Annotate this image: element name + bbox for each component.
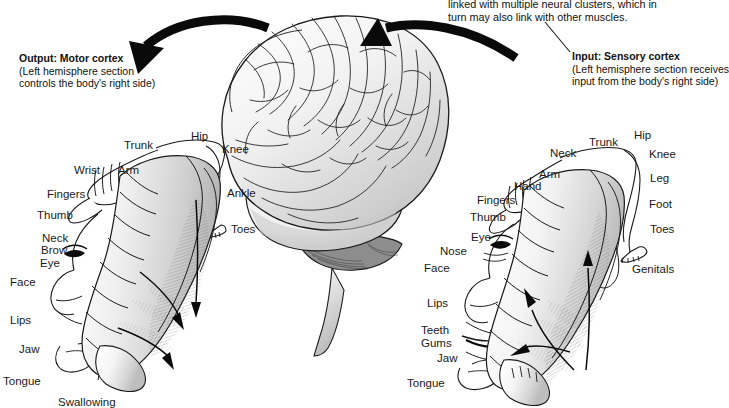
sensory-label-face: Face — [424, 262, 450, 274]
motor-label-fingers: Fingers — [47, 188, 85, 200]
input-caption: Input: Sensory cortex (Left hemisphere s… — [572, 50, 729, 88]
output-caption: Output: Motor cortex (Left hemisphere se… — [19, 52, 155, 90]
motor-homunculus-illustration — [51, 140, 226, 391]
sensory-homunculus-illustration — [458, 147, 647, 405]
sensory-label-fingers: Fingers — [477, 194, 515, 206]
sensory-label-jaw: Jaw — [437, 352, 457, 364]
motor-label-ankle: Ankle — [227, 187, 256, 199]
motor-label-hip: Hip — [191, 130, 208, 142]
sensory-label-tongue: Tongue — [407, 377, 445, 389]
sensory-label-hip: Hip — [634, 129, 651, 141]
motor-label-face: Face — [10, 276, 36, 288]
sensory-label-foot: Foot — [649, 198, 672, 210]
input-leader-line — [545, 22, 570, 52]
output-caption-line-2: controls the body's right side) — [19, 77, 155, 90]
sensory-label-hand: Hand — [514, 180, 542, 192]
motor-label-trunk: Trunk — [124, 139, 153, 151]
sensory-label-neck: Neck — [550, 147, 576, 159]
sensory-label-teeth: Teeth — [421, 324, 449, 336]
motor-label-neck: Neck — [42, 232, 68, 244]
sensory-label-thumb: Thumb — [470, 211, 506, 223]
neural-cluster-note: linked with multiple neural clusters, wh… — [448, 0, 657, 24]
motor-label-toes: Toes — [231, 223, 255, 235]
sensory-label-nose: Nose — [440, 245, 467, 257]
input-caption-line-2: input from the body's right side) — [572, 75, 729, 88]
output-caption-line-1: (Left hemisphere section — [19, 65, 155, 78]
input-caption-heading: Input: Sensory cortex — [572, 50, 729, 63]
sensory-label-eye: Eye — [471, 231, 491, 243]
sensory-label-lips: Lips — [427, 297, 448, 309]
motor-label-lips: Lips — [10, 314, 31, 326]
motor-label-knee: Knee — [222, 143, 249, 155]
sensory-label-trunk: Trunk — [589, 136, 618, 148]
motor-label-swallowing: Swallowing — [58, 396, 116, 408]
motor-label-eye: Eye — [40, 257, 60, 269]
sensory-label-genitals: Genitals — [632, 263, 674, 275]
motor-label-thumb: Thumb — [37, 209, 73, 221]
sensory-label-leg: Leg — [650, 172, 669, 184]
neural-cluster-note-line-1: linked with multiple neural clusters, wh… — [448, 0, 657, 11]
motor-label-tongue: Tongue — [3, 375, 41, 387]
sensory-label-arm: Arm — [539, 168, 560, 180]
output-caption-heading: Output: Motor cortex — [19, 52, 155, 65]
motor-label-arm: Arm — [118, 164, 139, 176]
input-caption-line-1: (Left hemisphere section receives — [572, 63, 729, 76]
neural-cluster-note-line-2: turn may also link with other muscles. — [448, 11, 657, 24]
sensory-label-toes: Toes — [650, 223, 674, 235]
motor-label-brow: Brow — [41, 244, 67, 256]
brain-illustration — [222, 16, 449, 356]
sensory-label-gums: Gums — [421, 337, 452, 349]
sensory-label-knee: Knee — [649, 148, 676, 160]
motor-label-jaw: Jaw — [19, 343, 39, 355]
motor-label-wrist: Wrist — [74, 164, 100, 176]
